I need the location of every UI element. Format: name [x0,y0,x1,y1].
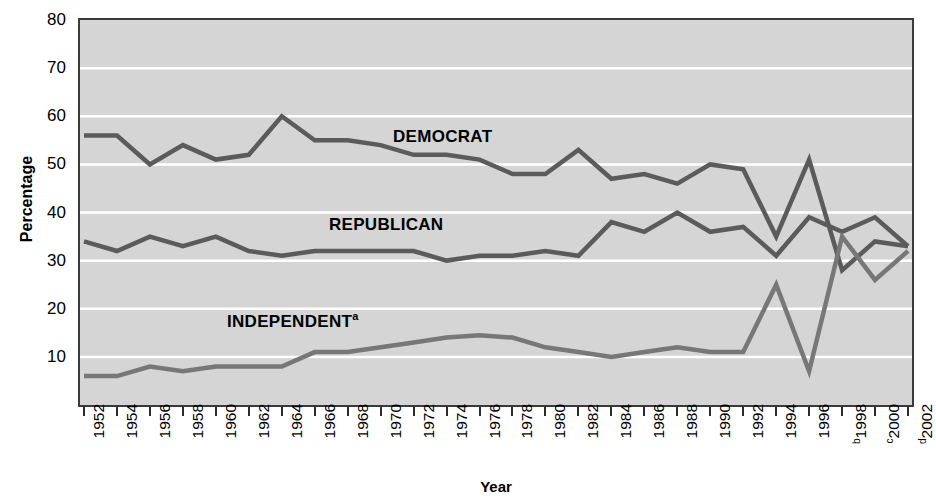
x-tick-label: 1984 [618,404,634,474]
x-tick-label: 1968 [355,404,371,474]
series-annotation-republican: REPUBLICAN [329,215,443,235]
y-axis-ticks: 1020304050607080 [22,0,66,420]
x-tick-mark [413,407,415,416]
x-tick-mark [643,407,645,416]
annotation-superscript: a [352,310,358,322]
x-tick-superscript: c [884,438,895,443]
x-tick-mark [544,407,546,416]
x-tick-label: 1972 [421,404,437,474]
x-tick-label: 1990 [717,404,733,474]
x-tick-label: 1962 [256,404,272,474]
x-tick-label: 1952 [91,404,107,474]
x-tick-mark [347,407,349,416]
x-tick-mark [742,407,744,416]
x-tick-label: 1976 [487,404,503,474]
x-tick-mark [610,407,612,416]
y-tick-label: 10 [26,348,66,365]
x-tick-mark [577,407,579,416]
y-tick-label: 50 [26,155,66,172]
x-tick-label: 1980 [552,404,568,474]
y-tick-label: 20 [26,300,66,317]
x-tick-mark [676,407,678,416]
x-tick-label: 1988 [684,404,700,474]
x-tick-mark [446,407,448,416]
x-tick-label: 1992 [750,404,766,474]
x-tick-mark [182,407,184,416]
x-tick-label: 1994 [783,404,799,474]
x-tick-label: 1964 [289,404,305,474]
series-annotation-democrat: DEMOCRAT [393,127,492,147]
x-tick-label: 1996 [816,404,832,474]
x-tick-mark [149,407,151,416]
x-tick-label: 1978 [519,404,535,474]
x-tick-mark [281,407,283,416]
x-tick-mark [709,407,711,416]
x-tick-label: 1954 [124,404,140,474]
x-tick-label: d2002 [915,404,931,474]
chart-svg [80,20,912,405]
y-tick-label: 60 [26,107,66,124]
y-tick-label: 80 [26,11,66,28]
y-tick-label: 70 [26,59,66,76]
x-tick-mark [215,407,217,416]
plot-area [78,18,914,407]
x-tick-label: 1970 [388,404,404,474]
x-tick-superscript: b [851,438,862,444]
x-tick-mark [874,407,876,416]
x-tick-mark [479,407,481,416]
x-tick-label: b1998 [849,404,865,474]
x-tick-label: 1986 [651,404,667,474]
x-tick-label: 1974 [454,404,470,474]
x-tick-label: 1960 [223,404,239,474]
y-tick-label: 40 [26,204,66,221]
x-tick-label: 1966 [322,404,338,474]
x-tick-mark [841,407,843,416]
x-tick-label: c2000 [882,404,898,474]
x-tick-mark [808,407,810,416]
series-lines [84,116,908,376]
x-tick-mark [775,407,777,416]
x-tick-superscript: d [917,438,928,444]
y-tick-label: 30 [26,252,66,269]
x-tick-mark [314,407,316,416]
x-tick-mark [380,407,382,416]
x-tick-label: 1982 [585,404,601,474]
x-axis-title: Year [78,478,914,495]
x-tick-mark [907,407,909,416]
chart-root: Percentage 1020304050607080 DEMOCRATREPU… [0,0,936,500]
series-annotation-independent: INDEPENDENTa [227,310,359,332]
x-tick-mark [511,407,513,416]
x-tick-mark [116,407,118,416]
x-axis-labels: 1952195419561958196019621964196619681970… [0,412,936,482]
x-tick-label: 1956 [157,404,173,474]
x-tick-mark [248,407,250,416]
x-tick-label: 1958 [190,404,206,474]
x-tick-mark [83,407,85,416]
